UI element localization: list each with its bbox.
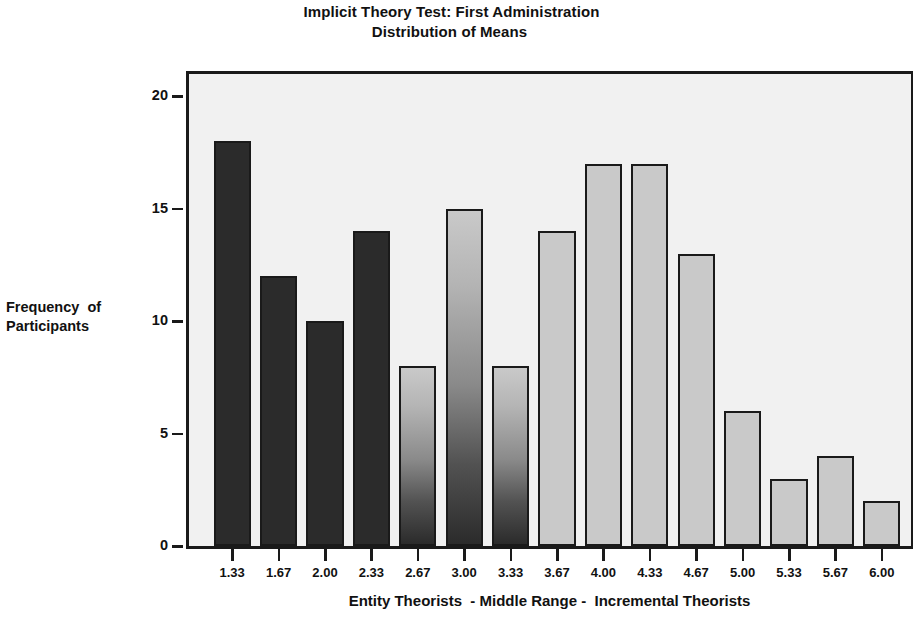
bar-2.67: [399, 366, 436, 546]
y-tick-label: 15: [130, 199, 168, 217]
bar-5.00: [724, 411, 761, 546]
chart-title-line-1: Implicit Theory Test: First Administrati…: [0, 2, 917, 22]
bar-1.67: [260, 276, 297, 546]
x-axis-title: Entity Theorists - Middle Range - Increm…: [186, 591, 913, 611]
bar-4.33: [631, 164, 668, 546]
bar-1.33: [214, 141, 251, 546]
bar-3.00: [446, 209, 483, 546]
x-tick-label: 6.00: [854, 564, 910, 581]
chart-title: Implicit Theory Test: First Administrati…: [0, 2, 917, 42]
y-tick-label: 0: [130, 536, 168, 554]
bar-5.67: [817, 456, 854, 546]
x-tick-mark: [463, 549, 466, 561]
bar-3.67: [538, 231, 575, 546]
y-tick-label: 20: [130, 86, 168, 104]
bar-3.33: [492, 366, 529, 546]
x-tick-mark: [556, 549, 559, 561]
x-tick-mark: [742, 549, 745, 561]
plot-area: [189, 74, 911, 546]
bar-6.00: [863, 501, 900, 546]
y-tick-mark: [172, 95, 183, 98]
x-tick-mark: [417, 549, 420, 561]
x-tick-mark: [881, 549, 884, 561]
x-tick-mark: [510, 549, 513, 561]
bar-4.00: [585, 164, 622, 546]
x-tick-mark: [695, 549, 698, 561]
y-tick-mark: [172, 320, 183, 323]
x-tick-mark: [278, 549, 281, 561]
x-tick-mark: [324, 549, 327, 561]
x-tick-mark: [370, 549, 373, 561]
x-tick-mark: [602, 549, 605, 561]
bar-4.67: [678, 254, 715, 546]
x-tick-mark: [834, 549, 837, 561]
plot-frame: [186, 71, 913, 549]
y-tick-mark: [172, 545, 183, 548]
bar-5.33: [770, 479, 807, 546]
y-tick-mark: [172, 433, 183, 436]
x-tick-mark: [231, 549, 234, 561]
x-tick-mark: [649, 549, 652, 561]
x-tick-mark: [788, 549, 791, 561]
bar-2.33: [353, 231, 390, 546]
bar-2.00: [306, 321, 343, 546]
y-tick-label: 10: [130, 311, 168, 329]
y-tick-mark: [172, 208, 183, 211]
y-tick-label: 5: [130, 424, 168, 442]
chart-title-line-2: Distribution of Means: [0, 22, 917, 42]
